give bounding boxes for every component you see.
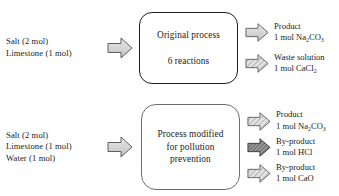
output-amount: 1 mol Na2CO3 <box>274 32 324 44</box>
output-item-product-na2co3: Product 1 mol Na2CO3 <box>245 21 325 45</box>
output-text: Waste solution 1 mol CaCl2 <box>274 52 325 76</box>
output-label: Product <box>276 109 326 120</box>
input-item-limestone: Limestone (1 mol) <box>6 141 106 153</box>
modified-process-line1: Process modified <box>158 128 224 141</box>
output-text: By-product 1 mol CaO <box>276 162 315 185</box>
output-amount: 1 mol HCl <box>276 147 315 158</box>
original-outputs-list: Product 1 mol Na2CO3 Waste solution 1 mo… <box>245 17 325 78</box>
right-arrow-icon <box>245 21 269 44</box>
output-item-product-na2co3: Product 1 mol Na2CO3 <box>247 109 326 133</box>
original-process-box: Original process 6 reactions <box>139 12 238 84</box>
output-text: Product 1 mol Na2CO3 <box>276 109 326 133</box>
output-item-waste-cacl2: Waste solution 1 mol CaCl2 <box>245 52 325 76</box>
output-amount: 1 mol Na2CO3 <box>276 121 326 133</box>
modified-process-box: Process modified for pollution preventio… <box>141 104 240 190</box>
input-item-salt: Salt (2 mol) <box>6 130 106 142</box>
original-process-line2: 6 reactions <box>168 55 210 68</box>
output-amount: 1 mol CaCl2 <box>274 63 325 75</box>
modified-inputs-list: Salt (2 mol) Limestone (1 mol) Water (1 … <box>0 130 106 165</box>
output-label: Waste solution <box>274 52 325 63</box>
output-item-byproduct-hcl: By-product 1 mol HCl <box>247 136 326 159</box>
output-amount: 1 mol CaO <box>276 173 315 184</box>
modified-outputs-list: Product 1 mol Na2CO3 By-product 1 mol HC… <box>247 108 326 187</box>
output-text: Product 1 mol Na2CO3 <box>274 21 324 45</box>
right-arrow-icon <box>247 162 271 185</box>
input-item-salt: Salt (2 mol) <box>6 36 106 48</box>
process-flow-diagram: Salt (2 mol) Limestone (1 mol) <box>0 0 339 196</box>
output-label: By-product <box>276 162 315 173</box>
input-item-limestone: Limestone (1 mol) <box>6 48 106 60</box>
input-item-water: Water (1 mol) <box>6 153 106 165</box>
modified-process-line2: for pollution <box>166 141 214 154</box>
output-item-byproduct-cao: By-product 1 mol CaO <box>247 162 326 185</box>
right-arrow-icon <box>107 35 133 61</box>
right-arrow-icon <box>245 52 269 75</box>
output-label: Product <box>274 21 324 32</box>
output-text: By-product 1 mol HCl <box>276 136 315 159</box>
right-arrow-icon <box>247 110 271 133</box>
right-arrow-icon <box>107 134 133 160</box>
output-label: By-product <box>276 136 315 147</box>
modified-process-line3: prevention <box>170 153 211 166</box>
right-arrow-icon <box>247 136 271 159</box>
original-process-row: Salt (2 mol) Limestone (1 mol) <box>0 4 339 92</box>
original-inputs-list: Salt (2 mol) Limestone (1 mol) <box>0 36 106 59</box>
original-process-line1: Original process <box>157 29 220 42</box>
modified-process-row: Salt (2 mol) Limestone (1 mol) Water (1 … <box>0 100 339 194</box>
